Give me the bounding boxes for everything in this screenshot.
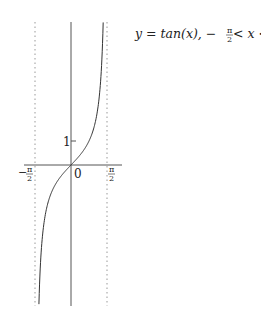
tan-chart: 1 0 − π 2 π 2 y = tan(x), − π 2 < x < π2 xyxy=(0,0,261,321)
pi-numerator: π xyxy=(109,165,114,174)
title-inequality: < x < xyxy=(233,26,261,41)
title-lhs: y = tan(x), − xyxy=(134,26,216,41)
pi-numerator: π xyxy=(27,165,32,174)
chart-title: y = tan(x), − π 2 xyxy=(134,26,233,44)
minus-sign: − xyxy=(18,166,27,179)
title-pi-num-1: π xyxy=(227,26,232,35)
title-main: y = tan(x), − xyxy=(134,26,216,41)
two-denominator: 2 xyxy=(27,174,32,183)
x-tick-label-pi-over-2: π 2 xyxy=(108,165,115,183)
x-tick-label-neg-pi-over-2: − π 2 xyxy=(18,165,33,183)
two-denominator: 2 xyxy=(109,174,114,183)
x-tick-label-0: 0 xyxy=(74,167,82,181)
y-tick-label-1: 1 xyxy=(63,135,71,149)
title-two-den-1: 2 xyxy=(227,35,232,44)
